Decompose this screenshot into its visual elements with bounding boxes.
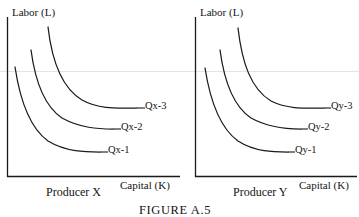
- curve-label-qy-3: Qy-3: [331, 101, 353, 112]
- curve-qy-1: [205, 68, 288, 152]
- right-panel-caption: Producer Y: [233, 186, 288, 198]
- left-panel-curves: [15, 27, 136, 152]
- right-y-axis-label: Labor (L): [200, 7, 243, 18]
- figure-container: Labor (L) Qx-3 Qx-2 Qx-1 Capital (K) Pro…: [0, 0, 359, 217]
- curve-qx-2: [31, 50, 113, 129]
- curve-qx-3: [48, 27, 136, 108]
- curve-label-qx-2: Qx-2: [121, 122, 143, 133]
- left-panel-axes: [7, 17, 180, 177]
- left-panel-caption: Producer X: [46, 186, 101, 198]
- right-panel-curves: [205, 28, 324, 152]
- curve-label-qx-1: Qx-1: [108, 145, 130, 156]
- curve-label-qy-2: Qy-2: [308, 122, 330, 133]
- curve-label-qy-1: Qy-1: [295, 145, 317, 156]
- left-x-axis-label: Capital (K): [120, 180, 170, 191]
- curve-qy-2: [220, 50, 301, 129]
- right-panel-axes: [195, 17, 357, 177]
- left-y-axis-label: Labor (L): [12, 7, 55, 18]
- curve-label-qx-3: Qx-3: [145, 101, 167, 112]
- curve-qy-3: [238, 28, 324, 108]
- figure-caption: FIGURE A.5: [139, 204, 211, 217]
- right-x-axis-label: Capital (K): [299, 180, 349, 191]
- curve-qx-1: [15, 67, 100, 152]
